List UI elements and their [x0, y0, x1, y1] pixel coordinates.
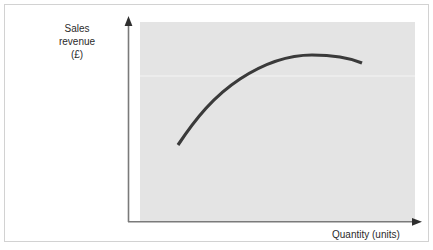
chart-figure: Sales revenue (£) Quantity (units): [0, 0, 433, 250]
x-axis-label: Quantity (units): [332, 228, 400, 241]
y-axis-label-line-1: Sales: [32, 22, 122, 35]
y-axis-label-line-3: (£): [32, 48, 122, 61]
y-axis-label-line-2: revenue: [32, 35, 122, 48]
x-axis-arrowhead: [412, 218, 422, 226]
y-axis-label: Sales revenue (£): [32, 22, 122, 61]
y-axis-arrowhead: [125, 16, 133, 26]
revenue-curve: [178, 55, 362, 145]
